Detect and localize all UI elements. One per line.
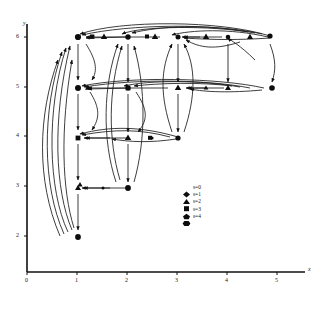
- scatter-plot-canvas: [0, 0, 323, 309]
- pentagon-marker-icon: [181, 206, 192, 213]
- xtick-1: 1: [75, 277, 78, 283]
- legend-item-s4: s=4: [181, 213, 225, 220]
- xtick-5: 5: [275, 277, 278, 283]
- x-axis-label: x: [308, 266, 311, 272]
- xtick-0: 0: [25, 277, 28, 283]
- legend-item-s3: s=3: [181, 206, 225, 213]
- legend-label-s4: s=4: [192, 213, 201, 220]
- ytick-3: 3: [16, 182, 19, 188]
- ytick-6: 6: [16, 33, 19, 39]
- legend: s=0 s=1 s=2 s=3 s=4: [181, 184, 225, 222]
- ytick-5: 5: [16, 83, 19, 89]
- xtick-3: 3: [175, 277, 178, 283]
- legend-label-s0: s=0: [192, 184, 201, 191]
- hexagon-marker-icon: [181, 213, 192, 220]
- square-marker-icon: [181, 198, 192, 205]
- graph-nodes: [75, 33, 275, 240]
- legend-item-s2: s=2: [181, 198, 225, 205]
- ytick-4: 4: [16, 132, 19, 138]
- diamond-marker-icon: [181, 184, 192, 191]
- legend-item-s0: s=0: [181, 184, 225, 191]
- graph-edges: [43, 24, 275, 236]
- xtick-4: 4: [225, 277, 228, 283]
- legend-item-s1: s=1: [181, 191, 225, 198]
- triangle-marker-icon: [181, 191, 192, 198]
- ytick-2: 2: [16, 232, 19, 238]
- legend-label-s3: s=3: [192, 206, 201, 213]
- legend-label-s1: s=1: [192, 191, 201, 198]
- legend-label-s2: s=2: [192, 198, 201, 205]
- xtick-2: 2: [125, 277, 128, 283]
- y-axis-label: y: [23, 20, 26, 26]
